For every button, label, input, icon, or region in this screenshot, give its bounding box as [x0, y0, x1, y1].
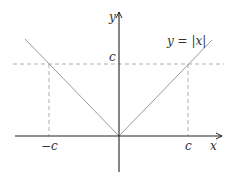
function-label: y = |x|: [166, 34, 206, 48]
y-axis-label: y: [108, 10, 116, 24]
x-tick-neg-c: −c: [41, 139, 58, 153]
abs-value-diagram: y x y = |x| c −c c: [0, 0, 236, 178]
x-tick-pos-c: c: [185, 139, 192, 153]
y-tick-c: c: [109, 50, 116, 64]
x-axis-label: x: [210, 139, 217, 153]
